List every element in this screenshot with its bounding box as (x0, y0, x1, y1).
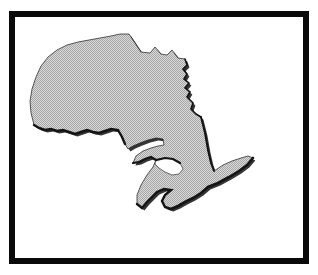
screenshot-root: Ontario (0, 0, 318, 275)
ontario-map-svg (15, 17, 303, 258)
black-border-frame: Ontario (9, 11, 309, 264)
map-canvas (15, 17, 303, 258)
